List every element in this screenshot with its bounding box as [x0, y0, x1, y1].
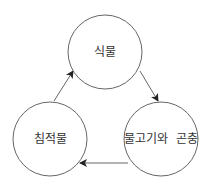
node-plants: 식물	[68, 15, 142, 89]
node-fish-insects: 물고기와 곤충	[124, 102, 198, 176]
node-label-fish-insects: 물고기와 곤충	[124, 132, 198, 146]
edge-sediment-to-plants	[54, 71, 73, 101]
edge-plants-to-fish-insects	[140, 71, 158, 101]
node-sediment: 침적물	[13, 102, 87, 176]
cycle-diagram: 식물 침적물 물고기와 곤충	[0, 0, 211, 188]
node-label-plants: 식물	[94, 45, 116, 59]
node-label-sediment: 침적물	[34, 132, 67, 146]
